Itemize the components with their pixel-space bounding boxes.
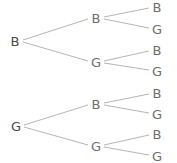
leaf-g-b-g: G (152, 108, 162, 121)
edge-gb-to-b (104, 94, 149, 103)
tree-edges (0, 0, 177, 162)
leaf-g-b-b: B (153, 87, 162, 100)
leaf-b-b-b: B (153, 1, 162, 14)
root-node-g: G (11, 120, 21, 133)
edge-gg-to-g (104, 147, 149, 155)
edge-gg-to-b (104, 135, 149, 145)
edge-g-to-g (24, 127, 88, 145)
leaf-b-g-b: B (153, 44, 162, 57)
leaf-g-g-g: G (152, 150, 162, 163)
edge-gb-to-g (104, 105, 149, 113)
edge-g-to-b (24, 105, 88, 125)
leaf-g-g-b: B (153, 128, 162, 141)
edge-bg-to-b (104, 51, 149, 61)
edge-bg-to-g (104, 63, 149, 70)
edge-b-to-b (23, 19, 88, 40)
node-g-g: G (91, 140, 101, 153)
edge-bb-to-g (104, 19, 149, 28)
edge-bb-to-b (104, 8, 149, 17)
leaf-b-g-g: G (152, 65, 162, 78)
node-b-g: G (91, 56, 101, 69)
node-b-b: B (92, 12, 101, 25)
node-g-b: B (92, 98, 101, 111)
root-node-b: B (11, 35, 20, 48)
leaf-b-b-g: G (152, 23, 162, 36)
edge-b-to-g (23, 42, 88, 61)
